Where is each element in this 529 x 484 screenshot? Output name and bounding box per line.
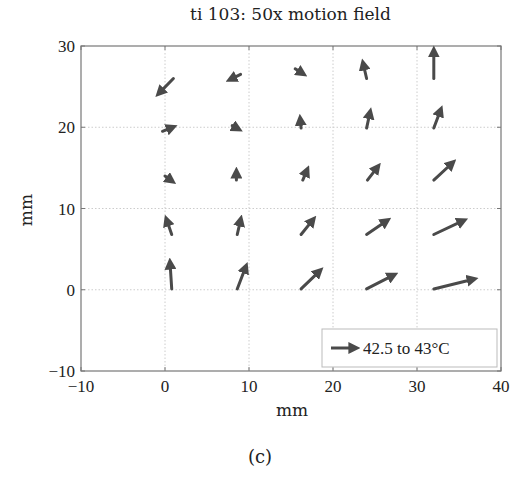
motion-arrow — [367, 167, 377, 180]
motion-arrow — [159, 79, 173, 94]
motion-arrow — [367, 275, 394, 289]
motion-arrow — [237, 267, 245, 289]
motion-arrow — [363, 64, 366, 79]
x-tick-label: 30 — [409, 377, 426, 396]
x-tick-label: 0 — [161, 377, 170, 396]
motion-arrow — [300, 119, 301, 128]
x-axis-label: mm — [270, 400, 314, 420]
motion-arrow — [231, 74, 241, 79]
motion-arrow — [367, 221, 387, 235]
motion-arrow — [301, 271, 319, 289]
motion-arrow — [170, 263, 172, 289]
quiver-plot: −10010203040−100102030 42.5 to 43°C — [0, 0, 529, 484]
motion-arrow — [167, 220, 172, 235]
x-tick-label: 10 — [241, 377, 258, 396]
motion-arrow — [367, 113, 370, 128]
y-tick-label: 20 — [58, 118, 75, 137]
motion-arrow — [165, 176, 172, 181]
motion-arrow — [295, 69, 303, 74]
motion-arrow — [232, 126, 238, 129]
motion-arrow — [434, 279, 473, 289]
motion-arrow — [434, 163, 452, 180]
grid-lines — [81, 46, 501, 371]
y-tick-label: 30 — [58, 37, 75, 56]
y-axis-label: mm — [16, 190, 36, 230]
y-tick-label: 10 — [58, 200, 75, 219]
x-tick-label: 20 — [325, 377, 342, 396]
motion-arrow — [237, 220, 240, 235]
x-tick-label: 40 — [493, 377, 510, 396]
y-tick-label: −10 — [48, 362, 75, 381]
legend-label: 42.5 to 43°C — [363, 339, 450, 358]
arrow-field — [159, 51, 473, 289]
figure-caption: (c) — [240, 446, 280, 467]
motion-arrow — [434, 110, 441, 128]
motion-arrow — [434, 221, 463, 235]
motion-arrow — [301, 220, 313, 235]
motion-arrow — [162, 127, 172, 131]
y-tick-label: 0 — [67, 281, 76, 300]
legend: 42.5 to 43°C — [322, 329, 497, 367]
motion-arrow — [303, 170, 307, 180]
